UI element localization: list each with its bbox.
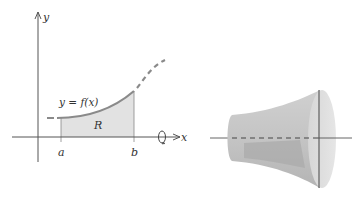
solid-body: [228, 90, 321, 188]
curve-label: y = f(x): [58, 96, 98, 108]
solid-end-face: [308, 90, 336, 188]
region-label: R: [93, 119, 102, 132]
curve-dash-right: [137, 60, 165, 88]
right-panel-solid: [210, 90, 352, 188]
left-panel-graph: y x y = f(x) R a b: [12, 11, 188, 162]
solid-of-revolution-figure: y x y = f(x) R a b: [0, 0, 364, 197]
tick-label-b: b: [131, 146, 138, 159]
y-axis-label: y: [42, 11, 50, 24]
x-axis-label: x: [181, 131, 188, 144]
tick-label-a: a: [58, 146, 65, 159]
